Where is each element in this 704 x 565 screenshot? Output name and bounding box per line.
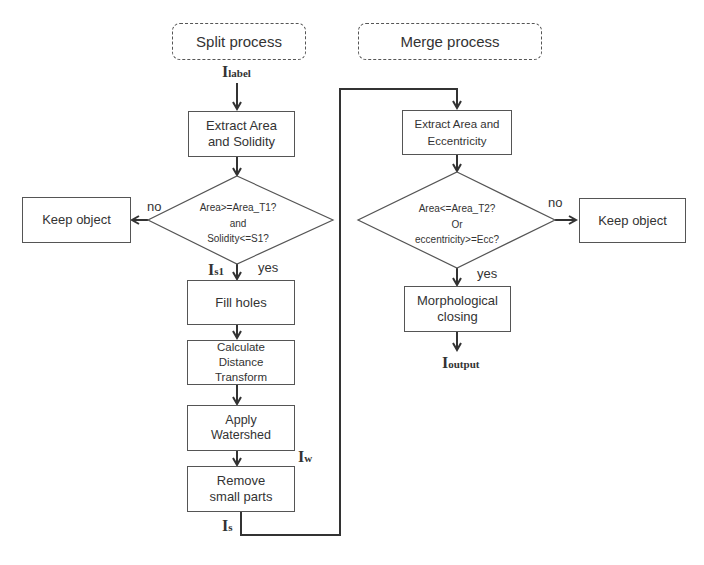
split-process-header: Split process: [172, 23, 306, 60]
morphological-closing-box: Morphological closing: [404, 286, 511, 332]
merge-no-label: no: [548, 195, 562, 210]
merge-extract-box: Extract Area and Eccentricity: [402, 110, 512, 155]
i-w-annotation: Iw: [298, 448, 312, 466]
split-extract-box: Extract Area and Solidity: [188, 111, 295, 157]
split-no-label: no: [147, 199, 161, 214]
merge-process-title: Merge process: [400, 33, 499, 50]
i-label-annotation: Ilabel: [222, 63, 251, 81]
merge-keep-object-box: Keep object: [579, 198, 686, 243]
split-keep-object-box: Keep object: [22, 197, 131, 243]
remove-small-parts-box: Remove small parts: [187, 466, 295, 512]
connectors: [0, 0, 704, 565]
i-s1-annotation: Is1: [208, 261, 224, 279]
merge-decision-text: Area<=Area_T2? Or eccentricity>=Ecc?: [402, 201, 512, 248]
merge-yes-label: yes: [477, 266, 497, 281]
split-yes-label: yes: [258, 260, 278, 275]
i-output-annotation: Ioutput: [442, 354, 479, 372]
i-s-annotation: Is: [222, 517, 233, 535]
split-decision-text: Area>=Area_T1? and Solidity<=S1?: [188, 200, 288, 247]
flowchart: Split process Merge process Ilabel Is1 I…: [0, 0, 704, 565]
fill-holes-box: Fill holes: [187, 280, 295, 325]
distance-transform-box: Calculate Distance Transform: [187, 340, 295, 385]
merge-process-header: Merge process: [358, 23, 542, 60]
apply-watershed-box: Apply Watershed: [187, 405, 295, 451]
split-process-title: Split process: [196, 33, 282, 50]
